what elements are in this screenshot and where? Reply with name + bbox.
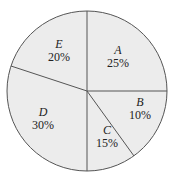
svg-text:10%: 10% (129, 108, 151, 122)
svg-text:25%: 25% (107, 56, 129, 70)
svg-text:A: A (113, 43, 122, 57)
svg-text:20%: 20% (48, 50, 70, 64)
svg-text:B: B (136, 95, 144, 109)
pie-chart: A 25% B 10% C 15% D 30% E 20% (0, 0, 174, 183)
svg-text:E: E (54, 37, 63, 51)
svg-text:15%: 15% (96, 136, 118, 150)
svg-text:D: D (38, 105, 48, 119)
svg-text:30%: 30% (32, 118, 54, 132)
svg-text:C: C (103, 123, 112, 137)
